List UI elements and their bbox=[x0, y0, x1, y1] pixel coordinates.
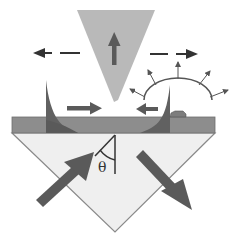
film-layer bbox=[12, 117, 215, 133]
prism bbox=[12, 133, 215, 232]
dashed-arrow-left bbox=[33, 48, 80, 58]
surface-particle bbox=[170, 111, 186, 117]
radiating-arrow-4 bbox=[199, 71, 210, 85]
dashed-arrow-right bbox=[150, 49, 198, 59]
tir-schematic-diagram: θ bbox=[0, 0, 240, 246]
angle-label: θ bbox=[98, 159, 106, 175]
radiating-arrow-5 bbox=[210, 90, 228, 97]
